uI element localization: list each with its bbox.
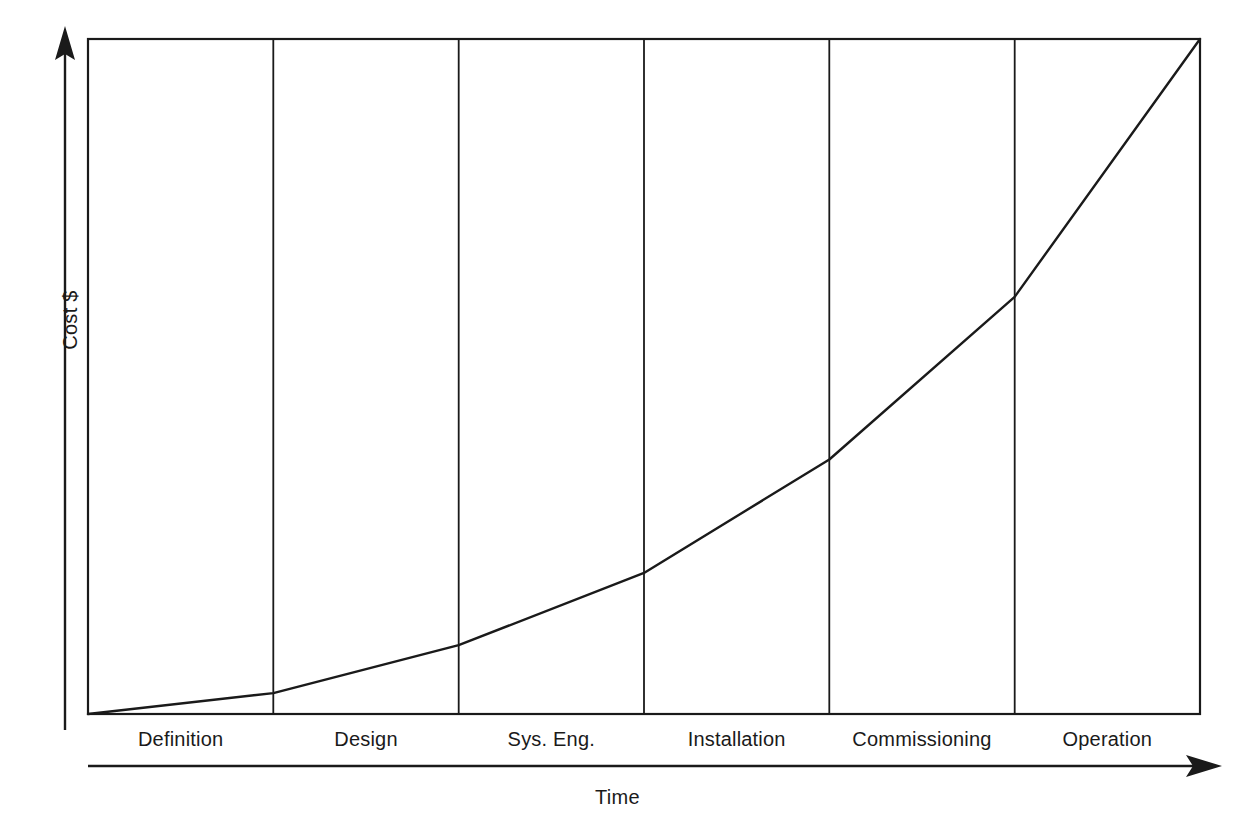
cost-vs-time-figure: Cost $ Definition Design Sys. Eng. Insta… [0,0,1235,837]
phase-label-commissioning: Commissioning [829,722,1014,756]
y-axis-title: Cost $ [50,250,90,390]
phase-label-installation: Installation [644,722,829,756]
x-axis-title: Time [0,786,1235,809]
phase-label-design: Design [273,722,458,756]
phase-label-definition: Definition [88,722,273,756]
x-axis-arrow [88,755,1222,777]
chart-canvas [0,0,1235,837]
phase-label-operation: Operation [1015,722,1200,756]
phase-label-sys-eng: Sys. Eng. [459,722,644,756]
phase-dividers [273,39,1014,714]
phase-label-strip: Definition Design Sys. Eng. Installation… [88,722,1200,756]
